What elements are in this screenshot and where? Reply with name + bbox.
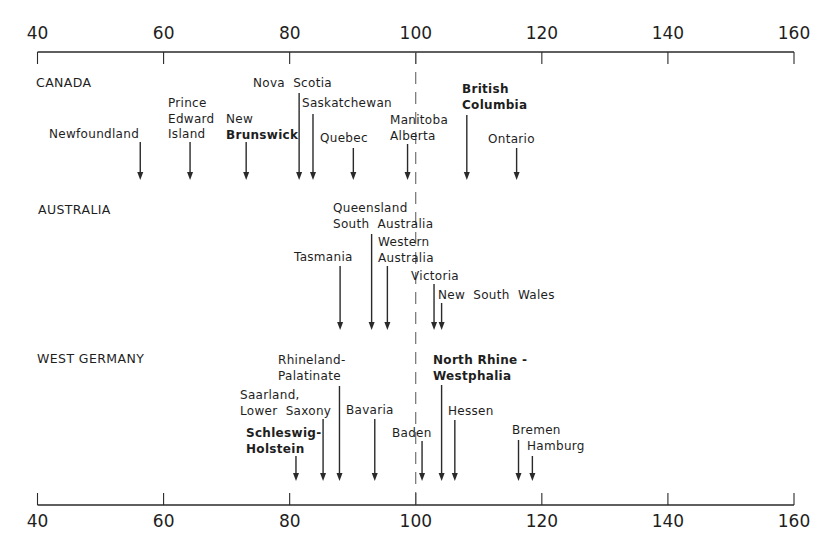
arrow-down-icon-saskatchewan	[310, 172, 316, 180]
top-tick-label-120: 120	[526, 23, 558, 43]
arrow-label-line: Alberta	[390, 129, 448, 145]
group-title-australia: AUSTRALIA	[38, 202, 111, 217]
arrow-label-line: Newfoundland	[49, 127, 139, 143]
arrow-label-manitoba-alberta: ManitobaAlberta	[390, 113, 448, 144]
arrow-label-line: Victoria	[411, 269, 459, 285]
arrow-label-line: Hamburg	[527, 439, 585, 455]
arrow-label-saskatchewan: Saskatchewan	[302, 96, 392, 112]
arrow-down-icon-newfoundland	[137, 172, 143, 180]
arrow-down-icon-schleswig-holstein	[293, 473, 299, 481]
arrow-label-hamburg: Hamburg	[527, 439, 585, 455]
bottom-tick-label-60: 60	[153, 511, 175, 531]
top-tick-label-80: 80	[279, 23, 301, 43]
top-tick-label-140: 140	[652, 23, 684, 43]
arrow-label-line: Prince	[168, 96, 215, 112]
arrow-label-line: New South Wales	[438, 288, 555, 304]
arrow-label-british-columbia: BritishColumbia	[462, 82, 527, 113]
arrow-label-ontario: Ontario	[488, 132, 535, 148]
arrow-label-line: Brunswick	[226, 128, 298, 144]
arrow-label-line: Queensland	[333, 201, 433, 217]
arrow-label-line: Rhineland-	[278, 353, 346, 369]
arrow-down-icon-quebec	[350, 172, 356, 180]
arrow-down-icon-saarland-lower-saxony	[320, 473, 326, 481]
arrow-label-line: Baden	[392, 426, 432, 442]
arrow-down-icon-north-rhine-westphalia	[439, 473, 445, 481]
arrow-label-line: Westphalia	[433, 369, 527, 385]
arrow-down-icon-victoria	[431, 322, 437, 330]
arrow-down-icon-western-australia	[384, 322, 390, 330]
arrow-down-icon-bremen	[516, 473, 522, 481]
arrow-label-hessen: Hessen	[448, 404, 494, 420]
arrow-down-icon-hamburg	[529, 473, 535, 481]
arrow-label-line: Saskatchewan	[302, 96, 392, 112]
arrow-label-line: Bavaria	[346, 403, 394, 419]
arrow-down-icon-ontario	[514, 172, 520, 180]
top-tick-label-160: 160	[778, 23, 810, 43]
arrow-label-line: Columbia	[462, 98, 527, 114]
arrow-label-line: Edward	[168, 112, 215, 128]
arrow-label-line: Tasmania	[294, 250, 353, 266]
arrow-label-queensland-south-australia: QueenslandSouth Australia	[333, 201, 433, 232]
arrow-label-line: Palatinate	[278, 369, 346, 385]
bottom-tick-label-160: 160	[778, 511, 810, 531]
arrow-label-line: Ontario	[488, 132, 535, 148]
arrow-label-newfoundland: Newfoundland	[49, 127, 139, 143]
arrow-label-line: Hessen	[448, 404, 494, 420]
arrow-label-line: Australia	[378, 251, 434, 267]
arrow-down-icon-rhineland-palatinate	[336, 473, 342, 481]
arrow-down-icon-new-south-wales	[439, 322, 445, 330]
arrow-label-line: South Australia	[333, 217, 433, 233]
arrow-down-icon-queensland-south-australia	[369, 322, 375, 330]
arrow-label-new-south-wales: New South Wales	[438, 288, 555, 304]
top-tick-label-40: 40	[27, 23, 49, 43]
arrow-down-icon-bavaria	[372, 473, 378, 481]
arrow-label-line: Manitoba	[390, 113, 448, 129]
arrow-label-line: Lower Saxony	[240, 404, 331, 420]
arrow-label-line: British	[462, 82, 527, 98]
arrow-down-icon-tasmania	[337, 322, 343, 330]
arrow-label-saarland-lower-saxony: Saarland,Lower Saxony	[240, 388, 331, 419]
arrow-label-line: Holstein	[246, 442, 321, 458]
arrow-label-line: Western	[378, 235, 434, 251]
arrow-label-baden: Baden	[392, 426, 432, 442]
group-title-canada: CANADA	[36, 75, 92, 90]
arrow-label-line: Island	[168, 127, 215, 143]
arrow-label-line: Schleswig-	[246, 426, 321, 442]
bottom-tick-label-100: 100	[400, 511, 432, 531]
arrow-label-line: Bremen	[512, 423, 561, 439]
arrow-label-prince-edward-island: PrinceEdwardIsland	[168, 96, 215, 143]
chart-area: CANADA AUSTRALIA WEST GERMANY 40 60 80 1…	[0, 0, 832, 557]
arrow-down-icon-manitoba-alberta	[405, 172, 411, 180]
arrow-label-western-australia: WesternAustralia	[378, 235, 434, 266]
arrow-label-victoria: Victoria	[411, 269, 459, 285]
arrow-label-line: Quebec	[320, 131, 368, 147]
bottom-tick-label-80: 80	[279, 511, 301, 531]
arrow-label-line: New	[226, 112, 298, 128]
arrow-label-tasmania: Tasmania	[294, 250, 353, 266]
top-tick-label-100: 100	[400, 23, 432, 43]
bottom-tick-label-120: 120	[526, 511, 558, 531]
arrow-down-icon-prince-edward-island	[187, 172, 193, 180]
arrow-label-line: Saarland,	[240, 388, 331, 404]
arrow-label-bremen: Bremen	[512, 423, 561, 439]
arrow-down-icon-british-columbia	[464, 172, 470, 180]
arrow-label-schleswig-holstein: Schleswig-Holstein	[246, 426, 321, 457]
arrow-label-quebec: Quebec	[320, 131, 368, 147]
arrow-down-icon-baden	[419, 473, 425, 481]
arrow-label-north-rhine-westphalia: North Rhine -Westphalia	[433, 353, 527, 384]
arrow-down-icon-hessen	[452, 473, 458, 481]
bottom-tick-label-140: 140	[652, 511, 684, 531]
arrow-label-line: North Rhine -	[433, 353, 527, 369]
arrow-down-icon-nova-scotia	[296, 172, 302, 180]
arrow-down-icon-new-brunswick	[243, 172, 249, 180]
top-tick-label-60: 60	[153, 23, 175, 43]
group-title-west-germany: WEST GERMANY	[37, 351, 144, 366]
arrow-label-new-brunswick: NewBrunswick	[226, 112, 298, 143]
bottom-tick-label-40: 40	[27, 511, 49, 531]
arrow-label-line: Nova Scotia	[253, 76, 332, 92]
arrow-label-bavaria: Bavaria	[346, 403, 394, 419]
arrow-label-rhineland-palatinate: Rhineland-Palatinate	[278, 353, 346, 384]
arrow-label-nova-scotia: Nova Scotia	[253, 76, 332, 92]
